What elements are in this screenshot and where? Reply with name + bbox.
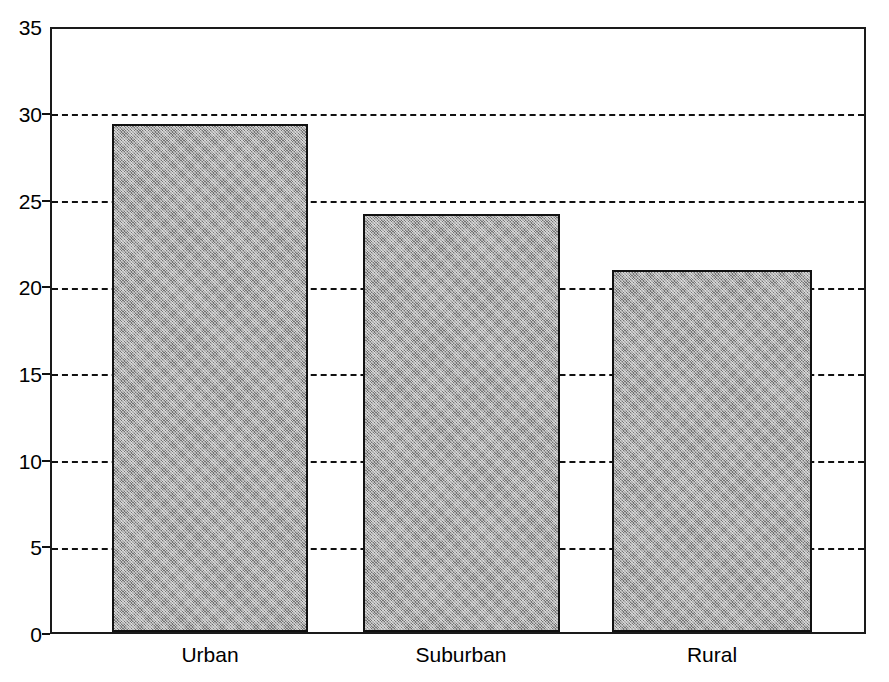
y-tick-label-10: 10 [19, 451, 42, 472]
y-tick-mark-0 [42, 633, 50, 635]
bar-rural[interactable] [612, 270, 812, 632]
x-tick-label-rural: Rural [687, 644, 737, 665]
bar-urban[interactable] [112, 124, 308, 632]
bar-suburban[interactable] [363, 214, 560, 632]
y-tick-label-5: 5 [30, 537, 42, 558]
y-tick-mark-10 [42, 460, 50, 462]
y-tick-label-0: 0 [30, 624, 42, 645]
x-tick-label-urban: Urban [181, 644, 238, 665]
y-tick-label-20: 20 [19, 277, 42, 298]
y-tick-label-15: 15 [19, 364, 42, 385]
plot-area [50, 27, 866, 634]
y-tick-mark-20 [42, 286, 50, 288]
y-tick-mark-25 [42, 200, 50, 202]
y-tick-label-25: 25 [19, 191, 42, 212]
gridline-30 [52, 114, 864, 116]
y-tick-mark-30 [42, 113, 50, 115]
y-axis: 35 30 25 20 15 10 5 0 [0, 0, 42, 682]
y-tick-mark-15 [42, 373, 50, 375]
bar-chart: 35 30 25 20 15 10 5 0 Urban Suburban Rur… [0, 0, 889, 682]
x-tick-label-suburban: Suburban [415, 644, 506, 665]
y-tick-label-30: 30 [19, 104, 42, 125]
y-tick-mark-5 [42, 546, 50, 548]
y-tick-label-35: 35 [19, 17, 42, 38]
